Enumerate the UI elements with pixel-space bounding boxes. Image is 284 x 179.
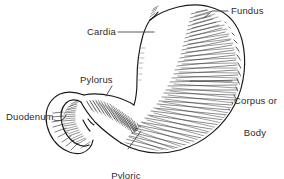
- label-fundus: Fundus: [231, 6, 264, 17]
- leader-duodenum: [54, 115, 66, 121]
- label-pylorus: Pylorus: [80, 75, 113, 86]
- label-pyloric-antrum-line-1: Pyloric: [98, 171, 154, 179]
- label-cardia: Cardia: [36, 27, 116, 38]
- label-corpus-line-2: Body: [234, 128, 276, 139]
- label-corpus-line-1: Corpus or: [234, 96, 284, 107]
- label-duodenum: Duodenum: [6, 112, 54, 123]
- label-pyloric-antrum: Pyloric antrum: [98, 150, 154, 179]
- leader-pylorus: [106, 86, 112, 96]
- stomach-diagram-figure: Fundus Cardia Corpus or Body Pylorus Duo…: [0, 0, 284, 179]
- label-corpus-or-body: Corpus or Body: [234, 75, 284, 159]
